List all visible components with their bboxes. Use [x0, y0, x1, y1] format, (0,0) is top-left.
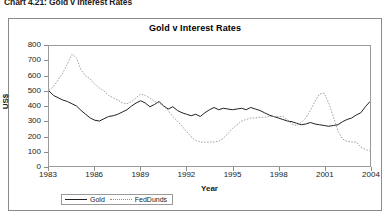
- dotted-line-swatch: [110, 199, 132, 200]
- x-tick-mark: [371, 167, 372, 171]
- y-tick-label: 300: [15, 117, 41, 125]
- x-tick-label: 1998: [262, 171, 296, 179]
- x-tick-mark: [325, 167, 326, 171]
- plot-area: [48, 45, 371, 167]
- x-tick-label: 1989: [123, 171, 157, 179]
- y-tick-label: 0: [15, 163, 41, 171]
- x-tick-label: 1995: [216, 171, 250, 179]
- series-line-gold: [49, 91, 370, 126]
- x-tick-label: 2004: [354, 171, 388, 179]
- x-tick-mark: [186, 167, 187, 171]
- plot-lines: [49, 46, 370, 166]
- legend-label: Gold: [90, 196, 105, 203]
- x-tick-mark: [94, 167, 95, 171]
- chart-legend: GoldFedDunds: [61, 194, 173, 205]
- x-axis-title: Year: [48, 184, 371, 193]
- y-tick-label: 400: [15, 102, 41, 110]
- x-tick-label: 1986: [77, 171, 111, 179]
- x-tick-label: 2001: [308, 171, 342, 179]
- x-tick-label: 1983: [31, 171, 65, 179]
- x-tick-mark: [140, 167, 141, 171]
- chart-frame: Gold v Interest Rates US$ 01002003004005…: [8, 18, 382, 211]
- legend-label: FedDunds: [135, 196, 167, 203]
- x-tick-mark: [233, 167, 234, 171]
- series-line-feddunds: [49, 54, 370, 151]
- x-tick-mark: [279, 167, 280, 171]
- y-tick-label: 200: [15, 133, 41, 141]
- legend-entry-gold: Gold: [65, 196, 105, 203]
- x-tick-mark: [48, 167, 49, 171]
- y-tick-label: 600: [15, 72, 41, 80]
- solid-line-swatch: [65, 199, 87, 200]
- legend-entry-feddunds: FedDunds: [110, 196, 167, 203]
- y-tick-label: 800: [15, 41, 41, 49]
- x-tick-label: 1992: [169, 171, 203, 179]
- y-tick-label: 100: [15, 148, 41, 156]
- figure-caption: Chart 4.21: Gold v Interest Rates: [4, 0, 132, 7]
- y-tick-label: 500: [15, 87, 41, 95]
- y-tick-label: 700: [15, 56, 41, 64]
